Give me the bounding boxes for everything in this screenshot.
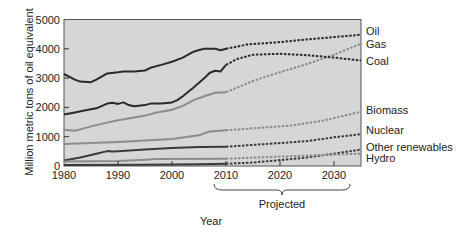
x-tick-label: 2030 [322, 169, 346, 181]
x-tick-label: 2000 [160, 169, 184, 181]
y-tick-label: 0 [54, 160, 60, 172]
y-tick-label: 4000 [36, 43, 60, 55]
x-tick-label: 2020 [268, 169, 292, 181]
series-label-nuclear: Nuclear [366, 124, 404, 136]
series-labels: OilGasCoalBiomassNuclearOther renewables… [366, 25, 453, 164]
y-tick-label: 2000 [36, 101, 60, 113]
series-label-hydro: Hydro [366, 152, 395, 164]
y-tick-label: 5000 [36, 14, 60, 26]
projected-brace [214, 184, 350, 195]
y-axis-title: Million metric tons of oil equivalent [23, 8, 35, 176]
x-tick-label: 1990 [106, 169, 130, 181]
series-label-oil: Oil [366, 25, 379, 37]
series-label-gas: Gas [366, 38, 387, 50]
series-label-coal: Coal [366, 55, 389, 67]
y-tick-label: 1000 [36, 131, 60, 143]
energy-consumption-chart: 198019902000201020202030 010002000300040… [0, 0, 468, 238]
x-axis-title: Year [200, 215, 223, 227]
series-label-other-renewables: Other renewables [366, 141, 453, 153]
projected-annotation: Projected [259, 198, 305, 210]
y-tick-label: 3000 [36, 72, 60, 84]
series-label-biomass: Biomass [366, 104, 409, 116]
x-tick-label: 2010 [214, 169, 238, 181]
